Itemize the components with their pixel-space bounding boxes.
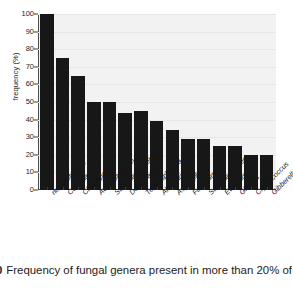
- x-axis-tick-mark: [63, 187, 64, 190]
- y-axis-tick-label: 50: [0, 98, 34, 106]
- x-axis-tick-mark: [235, 187, 236, 190]
- y-axis-tick-label: 70: [0, 63, 34, 71]
- x-axis-tick-mark: [94, 187, 95, 190]
- bar: [56, 58, 70, 190]
- figure-number: 0: [0, 264, 2, 276]
- x-axis-tick-labels: non-culturableCandidaCladosporiumAureoba…: [38, 191, 276, 257]
- x-axis-tick-mark: [220, 187, 221, 190]
- bar-chart: frequency (%) 0102030405060708090100 non…: [0, 0, 293, 256]
- x-axis-tick-mark: [267, 187, 268, 190]
- x-axis-tick-mark: [157, 187, 158, 190]
- figure-container: frequency (%) 0102030405060708090100 non…: [0, 0, 293, 288]
- x-axis-tick-mark: [110, 187, 111, 190]
- y-axis-tick-label: 30: [0, 133, 34, 141]
- y-axis-tick-label: 60: [0, 81, 34, 89]
- x-axis-tick-mark: [141, 187, 142, 190]
- y-axis-tick-label: 90: [0, 28, 34, 36]
- y-axis-tick-label: 0: [0, 186, 34, 194]
- y-axis-tick-label: 40: [0, 116, 34, 124]
- y-axis-tick-label: 80: [0, 45, 34, 53]
- x-axis-tick-mark: [188, 187, 189, 190]
- x-axis-tick-mark: [251, 187, 252, 190]
- y-axis-tick-label: 100: [0, 10, 34, 18]
- y-axis-tick-label: 10: [0, 169, 34, 177]
- x-axis-tick-mark: [204, 187, 205, 190]
- y-axis-tick-label: 20: [0, 151, 34, 159]
- x-axis-tick-mark: [78, 187, 79, 190]
- bar: [40, 14, 54, 190]
- x-axis-tick-mark: [47, 187, 48, 190]
- figure-caption: 0Frequency of fungal genera present in m…: [0, 264, 293, 277]
- figure-caption-text: Frequency of fungal genera present in mo…: [6, 264, 293, 276]
